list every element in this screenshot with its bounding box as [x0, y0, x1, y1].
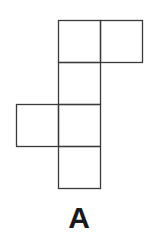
figure-label: A: [58, 203, 100, 233]
net-square-5: [59, 147, 101, 189]
net-square-2: [59, 63, 101, 105]
net-square-0: [59, 21, 101, 63]
cube-net: [0, 0, 146, 200]
net-square-1: [101, 21, 143, 63]
net-square-4: [59, 105, 101, 147]
net-square-3: [17, 105, 59, 147]
